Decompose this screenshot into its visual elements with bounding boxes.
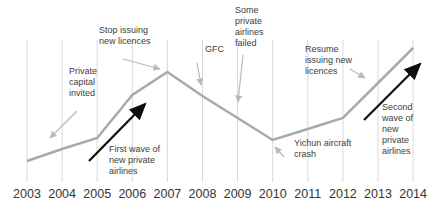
annotation-resume-issuing: Resume issuing new licences bbox=[305, 44, 352, 77]
annotation-gfc: GFC bbox=[205, 44, 224, 55]
trend-line bbox=[27, 48, 413, 161]
x-tick-2007: 2007 bbox=[153, 187, 181, 201]
x-tick-2014: 2014 bbox=[399, 187, 427, 201]
x-tick-2013: 2013 bbox=[364, 187, 392, 201]
x-tick-2008: 2008 bbox=[189, 187, 217, 201]
x-tick-2012: 2012 bbox=[329, 187, 357, 201]
annotation-second-wave: Second wave of new private airlines bbox=[382, 102, 413, 157]
resume-issuing-arrow bbox=[350, 69, 365, 78]
trend-chart bbox=[0, 0, 437, 213]
year-gridlines bbox=[27, 40, 413, 182]
annotation-arrows bbox=[50, 55, 420, 161]
annotation-stop-issuing: Stop issuing new licences bbox=[99, 25, 151, 47]
x-tick-2006: 2006 bbox=[118, 187, 146, 201]
annotation-airlines-failed: Some private airlines failed bbox=[235, 5, 264, 49]
private-capital-arrow bbox=[50, 111, 77, 138]
annotation-first-wave: First wave of new private airlines bbox=[109, 144, 160, 177]
yichun-crash-arrow bbox=[275, 147, 284, 157]
annotation-yichun-crash: Yichun aircraft crash bbox=[294, 138, 351, 160]
x-tick-2003: 2003 bbox=[13, 187, 41, 201]
annotation-private-capital: Private capital invited bbox=[69, 66, 97, 99]
x-tick-2011: 2011 bbox=[294, 187, 321, 201]
x-tick-2010: 2010 bbox=[259, 187, 287, 201]
stop-issuing-arrow bbox=[123, 59, 160, 69]
x-tick-2005: 2005 bbox=[83, 187, 111, 201]
x-tick-2004: 2004 bbox=[48, 187, 76, 201]
chart-canvas: Private capital invited Stop issuing new… bbox=[0, 0, 437, 213]
airlines-failed-arrow bbox=[238, 55, 243, 102]
x-tick-2009: 2009 bbox=[224, 187, 252, 201]
gfc-arrow bbox=[197, 63, 201, 85]
